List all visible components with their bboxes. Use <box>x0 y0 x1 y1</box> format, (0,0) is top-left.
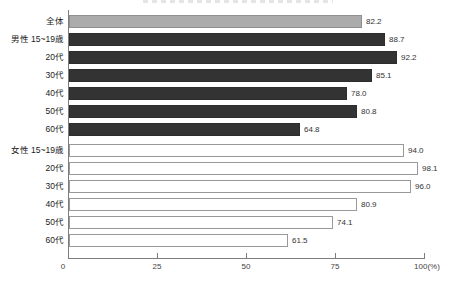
category-label: 20代 <box>0 51 64 64</box>
x-axis-tick <box>157 253 158 258</box>
x-axis-tick <box>335 253 336 258</box>
category-label: 30代 <box>0 180 64 193</box>
bar-male <box>69 51 397 64</box>
category-label: 60代 <box>0 234 64 247</box>
bar-total <box>69 15 362 28</box>
category-label: 男性 15~19歳 <box>0 33 64 46</box>
value-label: 92.2 <box>401 51 417 64</box>
value-label: 61.5 <box>292 234 308 247</box>
value-label: 80.9 <box>361 198 377 211</box>
bar-female <box>69 180 411 193</box>
category-label: 全体 <box>0 15 64 28</box>
x-axis-tick <box>246 253 247 258</box>
bar-female <box>69 144 404 157</box>
value-label: 88.7 <box>389 33 405 46</box>
bar-chart: 全体82.2男性 15~19歳88.720代92.230代85.140代78.0… <box>0 0 453 283</box>
category-label: 60代 <box>0 123 64 136</box>
value-label: 94.0 <box>408 144 424 157</box>
bar-male <box>69 87 347 100</box>
x-axis-tick-label: 100(%) <box>414 262 440 271</box>
x-axis-tick-label: 0 <box>61 262 65 271</box>
bar-female <box>69 198 357 211</box>
value-label: 85.1 <box>376 69 392 82</box>
category-label: 40代 <box>0 198 64 211</box>
value-label: 80.8 <box>361 105 377 118</box>
bar-female <box>69 216 333 229</box>
category-label: 40代 <box>0 87 64 100</box>
bar-female <box>69 234 288 247</box>
value-label: 82.2 <box>366 15 382 28</box>
x-axis-tick-label: 25 <box>153 262 162 271</box>
bar-male <box>69 105 357 118</box>
bar-female <box>69 162 418 175</box>
value-label: 74.1 <box>337 216 353 229</box>
bar-male <box>69 33 385 46</box>
category-label: 20代 <box>0 162 64 175</box>
value-label: 96.0 <box>415 180 431 193</box>
value-label: 78.0 <box>351 87 367 100</box>
category-label: 30代 <box>0 69 64 82</box>
x-axis-tick <box>424 253 425 258</box>
x-axis-tick-label: 75 <box>331 262 340 271</box>
category-label: 女性 15~19歳 <box>0 144 64 157</box>
bar-male <box>69 69 372 82</box>
value-label: 64.8 <box>304 123 320 136</box>
value-label: 98.1 <box>422 162 438 175</box>
x-axis-tick-label: 50 <box>242 262 251 271</box>
clipped-chart-title <box>143 0 333 3</box>
category-label: 50代 <box>0 105 64 118</box>
category-label: 50代 <box>0 216 64 229</box>
bar-male <box>69 123 300 136</box>
